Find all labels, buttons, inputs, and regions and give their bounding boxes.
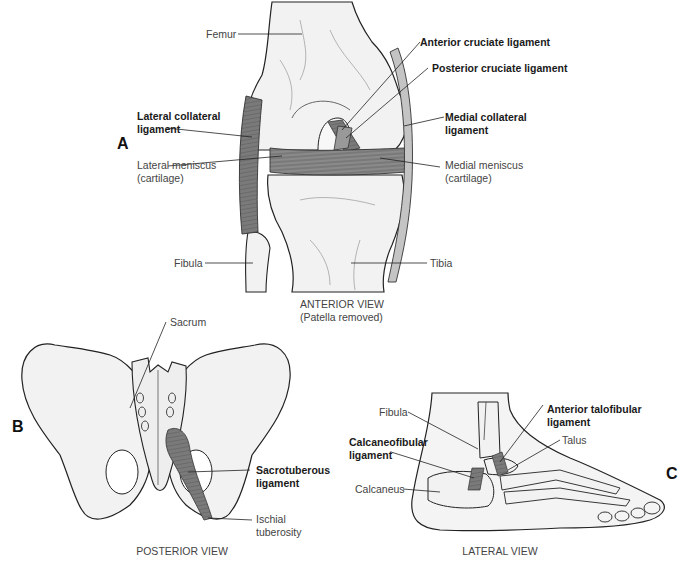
label-fibula-ankle: Fibula bbox=[379, 406, 408, 419]
label-posterior-cruciate-ligament: Posterior cruciate ligament bbox=[432, 62, 567, 75]
label-medial-meniscus: Medial meniscus (cartilage) bbox=[445, 159, 523, 185]
label-tibia: Tibia bbox=[430, 257, 452, 270]
label-lateral-collateral-ligament: Lateral collateral ligament bbox=[137, 110, 220, 136]
label-anterior-cruciate-ligament: Anterior cruciate ligament bbox=[420, 36, 550, 49]
tibia-bone bbox=[268, 175, 404, 292]
fibula-bone bbox=[246, 232, 271, 292]
foot-fibula-bone bbox=[478, 402, 500, 458]
anatomy-illustration bbox=[0, 0, 678, 563]
label-anterior-talofibular-ligament: Anterior talofibular ligament bbox=[547, 403, 642, 429]
caption-posterior-view: POSTERIOR VIEW bbox=[132, 545, 232, 558]
label-fibula-knee: Fibula bbox=[174, 257, 203, 270]
label-ischial-tuberosity: Ischial tuberosity bbox=[256, 513, 302, 539]
label-sacrum: Sacrum bbox=[170, 316, 206, 329]
panel-letter-c: C bbox=[666, 465, 678, 483]
calcaneus-bone bbox=[428, 471, 494, 508]
pelvis-diagram bbox=[22, 322, 290, 520]
label-femur: Femur bbox=[206, 28, 236, 41]
panel-letter-a: A bbox=[117, 135, 129, 153]
left-hip-bone bbox=[22, 344, 150, 519]
label-medial-collateral-ligament: Medial collateral ligament bbox=[445, 111, 527, 137]
panel-letter-b: B bbox=[12, 418, 24, 436]
knee-diagram bbox=[167, 2, 444, 292]
lateral-collateral-ligament bbox=[239, 96, 262, 234]
label-calcaneofibular-ligament: Calcaneofibular ligament bbox=[349, 436, 428, 462]
caption-anterior-view: ANTERIOR VIEW (Patella removed) bbox=[300, 298, 380, 324]
label-calcaneus: Calcaneus bbox=[355, 483, 405, 496]
label-lateral-meniscus: Lateral meniscus (cartilage) bbox=[137, 159, 216, 185]
caption-lateral-view: LATERAL VIEW bbox=[460, 545, 540, 558]
menisci-band bbox=[270, 148, 406, 175]
label-sacrotuberous-ligament: Sacrotuberous ligament bbox=[256, 464, 330, 490]
label-talus: Talus bbox=[562, 434, 587, 447]
